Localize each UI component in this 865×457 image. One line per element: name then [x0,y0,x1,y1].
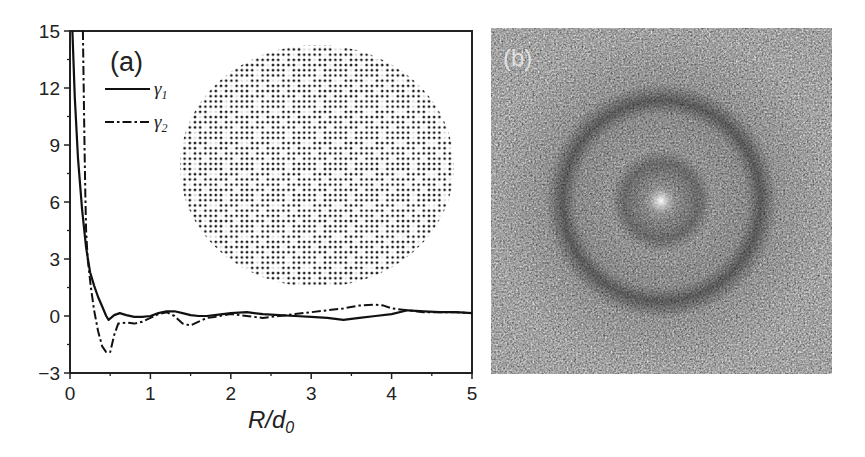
legend: γ1 γ2 [105,78,168,135]
y-tick-label: 9 [49,135,60,156]
y-tick-label: 12 [39,78,60,99]
legend-label-gamma1: γ1 [154,78,168,102]
y-tick-label: 15 [39,21,60,42]
legend-label-gamma2: γ2 [154,111,168,135]
x-tick-label: 0 [65,383,76,404]
x-tick-label: 2 [226,383,237,404]
inset-lattice [178,44,456,290]
speckle-image [491,28,832,374]
x-tick-label: 1 [145,383,156,404]
x-tick-label: 4 [386,383,397,404]
panel-label-b: (b) [503,44,532,72]
y-tick-label: 0 [49,306,60,327]
x-tick-label: 3 [306,383,317,404]
chart-panel-a: 15129630−3 012345 (a) γ1 γ2 R/d0 [0,0,480,457]
panel-label-a: (a) [110,47,143,77]
x-tick-label: 5 [467,383,478,404]
y-tick-label: 6 [49,192,60,213]
x-axis: 012345 [65,373,478,404]
central-bright-spot [645,185,677,217]
chart-panel-b-image: (b) [491,28,832,374]
y-tick-label: 3 [49,249,60,270]
y-axis: 15129630−3 [38,21,70,384]
x-axis-label: R/d0 [248,406,294,436]
y-tick-label: −3 [38,363,60,384]
